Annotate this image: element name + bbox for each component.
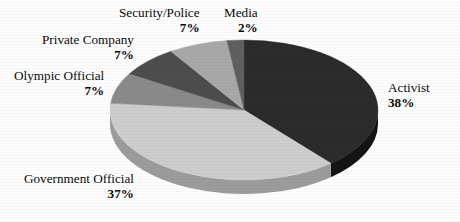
- slice-label-private-company: Private Company 7%: [42, 33, 134, 62]
- slice-label-security-police: Security/Police 7%: [119, 6, 200, 35]
- slice-label-percent: 7%: [14, 84, 104, 99]
- slice-label-name: Security/Police: [119, 6, 200, 21]
- slice-label-percent: 37%: [24, 187, 134, 202]
- chart-canvas: Security/Police 7% Media 2% Private Comp…: [0, 0, 460, 222]
- slice-label-name: Olympic Official: [14, 69, 104, 84]
- slice-label-olympic-official: Olympic Official 7%: [14, 69, 104, 98]
- slice-label-activist: Activist 38%: [388, 81, 430, 110]
- pie-top-faces-group: [110, 40, 378, 180]
- slice-label-percent: 7%: [42, 48, 134, 63]
- slice-label-name: Activist: [388, 81, 430, 96]
- slice-label-name: Private Company: [42, 33, 134, 48]
- slice-label-media: Media 2%: [224, 6, 258, 35]
- slice-label-percent: 38%: [388, 96, 430, 111]
- slice-label-name: Government Official: [24, 172, 134, 187]
- slice-label-government-official: Government Official 37%: [24, 172, 134, 201]
- slice-label-percent: 2%: [224, 21, 258, 36]
- slice-label-name: Media: [224, 6, 258, 21]
